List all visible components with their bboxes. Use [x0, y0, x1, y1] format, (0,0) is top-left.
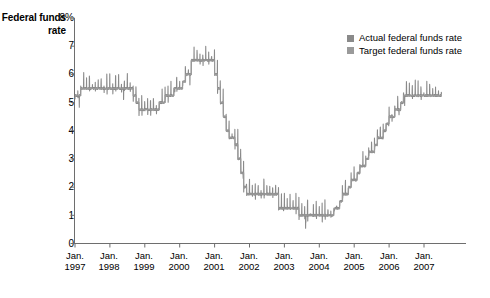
y-axis-ticks	[71, 18, 75, 244]
axes	[71, 18, 467, 248]
plot-area	[0, 0, 490, 298]
series-line-actual	[75, 46, 441, 228]
federal-funds-rate-chart: Federal funds rate 8% 7 6 5 4 3 2 1 0 Ja…	[0, 0, 490, 298]
x-axis-ticks	[75, 244, 424, 248]
data-series-group	[75, 46, 441, 228]
